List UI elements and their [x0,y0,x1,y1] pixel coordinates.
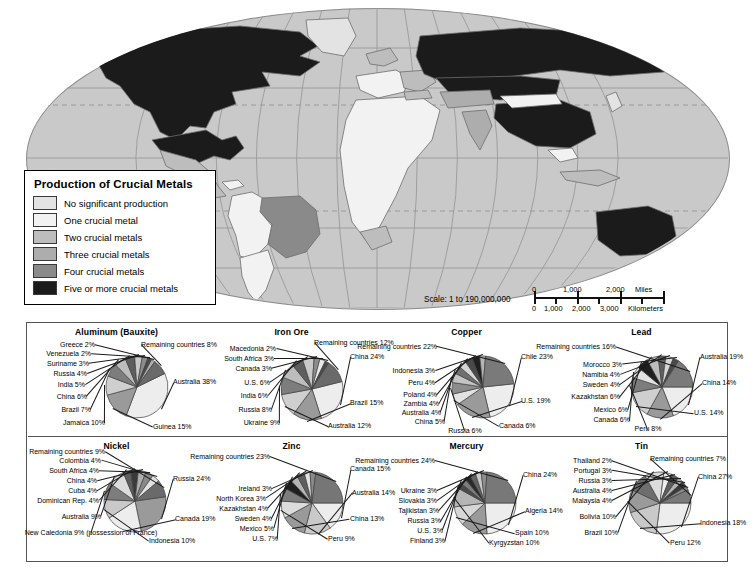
pie-slice-label: Portugal 3% [574,467,612,475]
scale-tick [663,291,665,304]
pie-slice-label: Canada 3% [235,365,272,373]
land-greenland [306,18,356,56]
pie-slice-label: China 6% [57,393,87,401]
pie-slice-label: Slovakia 3% [398,497,437,505]
pie-slice-label: Morocco 3% [583,361,622,369]
legend-swatch [33,196,57,210]
scale-label: Scale: 1 to 190,000,000 [424,295,511,304]
map-infographic-page: Production of Crucial Metals No signific… [0,0,754,570]
legend-title: Production of Crucial Metals [34,178,207,190]
pie-slice-label: Chile 23% [521,353,553,361]
pie-slice-label: Macedonia 2% [230,345,276,353]
pie-slice[interactable] [656,503,691,534]
pie-slice-label: Sweden 4% [235,515,272,523]
pie-slice-label: China 27% [698,473,732,481]
pie-slice-label: China 5% [415,418,445,426]
pie-slice[interactable] [485,472,516,503]
pie-slice-label: India 5% [58,381,85,389]
land-scandinavia [366,48,398,66]
pie-slice-label: Peru 12% [670,539,701,547]
pie-slice-label: Indonesia 18% [700,519,746,527]
pie-slice-label: Australia 12% [328,422,371,430]
pie-chart-cell: ZincCanada 15%Australia 14%China 13%Peru… [204,439,379,551]
pie-chart-cell: Aluminum (Bauxite)Australia 38%Guinea 15… [29,325,204,437]
pie-slice-label: Ireland 3% [239,485,272,493]
pie-slice-label: Canada 6% [499,422,536,430]
pie-slice-label: Remaining countries 23% [190,453,270,461]
legend-swatch [33,230,57,244]
pie-slice-label: Peru 8% [635,425,662,433]
pie-slice-label: Russia 3% [579,477,612,485]
map-legend: Production of Crucial Metals No signific… [24,170,216,305]
land-north-america [96,26,320,140]
scale-km-tick-1: 1,000 [544,304,563,313]
pie-slice-label: Mexico 6% [594,406,628,414]
scale-miles-tick-2: 2,000 [606,285,625,294]
pie-slice-label: Australia 4% [573,487,612,495]
pie-slice-label: Cuba 4% [68,487,97,495]
pie-slice-label: Venezuela 2% [46,350,91,358]
pie-slice-label: Suriname 3% [47,360,89,368]
pie-slice-label: Jamaica 10% [63,419,105,427]
pie-slice-label: U.S. 19% [521,397,551,405]
legend-item: One crucial metal [33,212,207,228]
scale-tick [555,297,557,304]
land-africa [340,96,440,240]
pie-slice-label: Kazakhstan 4% [219,505,268,513]
pie-chart-cell: CopperChile 23%U.S. 19%Canada 6%Russia 6… [379,325,554,437]
pie-chart-cell: LeadAustralia 19%China 14%U.S. 14%Peru 8… [554,325,729,437]
pie-slice-label: Indonesia 10% [149,537,195,545]
legend-item: Two crucial metals [33,229,207,245]
land-turkey [404,90,432,100]
scale-km-tick-0: 0 [532,304,536,313]
pie-slice-label: Australia 4% [402,409,441,417]
world-map: Production of Crucial Metals No signific… [0,0,754,318]
pie-slice-label: Dominican Rep. 4% [37,497,99,505]
pie-slice-label: China 24% [523,471,557,479]
pie-chart-title: Aluminum (Bauxite) [29,327,204,337]
pie-slice-label: Colombia 4% [59,457,101,465]
pie-slice-label: Finland 3% [410,537,445,545]
pie-slice-label: Indonesia 3% [393,367,435,375]
scale-km-tick-3: 3,000 [600,304,619,313]
pie-slice-label: U.S. 6% [244,379,270,387]
pie-slice-label: India 6% [241,392,268,400]
pie-chart-title: Copper [379,327,554,337]
pie-slice-label: U.S. 7% [252,535,278,543]
pie-slice-label: Russia 6% [448,427,481,435]
pie-chart-title: Iron Ore [204,327,379,337]
pie-slice-label: Zambia 4% [404,400,439,408]
legend-item: Four crucial metals [33,263,207,279]
pie-slice-label: Greece 2% [60,341,95,349]
pie-label-leader-line [104,385,105,423]
legend-swatch [33,281,57,295]
pie-slice-label: Australia 19% [700,353,743,361]
scale-km-unit: Kilometers [628,304,663,313]
land-russia [416,28,686,84]
pie-slice-label: Sweden 4% [583,381,620,389]
pie-chart-panel: Aluminum (Bauxite)Australia 38%Guinea 15… [26,322,728,562]
pie-chart-cell: TinChina 27%Indonesia 18%Peru 12%Brazil … [554,439,729,551]
pie-slice-label: Malaysia 4% [572,497,612,505]
legend-item-label: One crucial metal [64,215,138,226]
pie-chart-cell: NickelRussia 24%Canada 19%Indonesia 10%N… [29,439,204,551]
legend-item: Five or more crucial metals [33,280,207,296]
scale-tick [598,297,600,304]
pie-slice-label: Peru 9% [328,535,355,543]
legend-item: Three crucial metals [33,246,207,262]
legend-item-label: Three crucial metals [64,249,150,260]
pie-chart-title: Mercury [379,441,554,451]
legend-item-label: Five or more crucial metals [64,283,178,294]
pie-slice-label: North Korea 3% [216,495,266,503]
pie-slice-label: Spain 10% [515,529,549,537]
pie-chart-title: Lead [554,327,729,337]
pie-slice-label: China 4% [67,477,97,485]
pie-slice-label: China 14% [702,379,736,387]
land-indochina [548,148,578,162]
pie-slice-label: U.S. 14% [694,409,724,417]
land-new-zealand [668,256,690,276]
land-caribbean [222,180,244,190]
pie-slice-label: Remaining countries 7% [650,455,726,463]
pie-slice-label: Russia 4% [54,370,87,378]
legend-item-label: Two crucial metals [64,232,142,243]
